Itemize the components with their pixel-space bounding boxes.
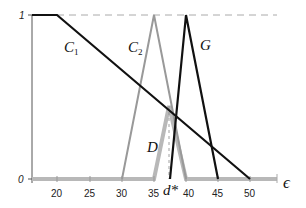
label-G: G (200, 37, 211, 53)
x-axis-label: ϵ (283, 173, 291, 192)
x-tick-label-50: 50 (244, 188, 256, 199)
x-tick-label-20: 20 (51, 188, 63, 199)
x-tick-label-35: 35 (148, 188, 160, 199)
fuzzy-membership-chart: 1 0 C1 C2 G D 20 25 30 35 d* 40 45 50 ϵ (0, 0, 306, 208)
x-label-dstar: d* (163, 182, 179, 198)
x-tick-label-30: 30 (116, 188, 128, 199)
x-tick-label-40: 40 (183, 188, 195, 199)
y-tick-label-0: 0 (18, 174, 24, 185)
label-C2: C2 (128, 39, 143, 57)
x-tick-label-25: 25 (84, 188, 96, 199)
x-tick-label-45: 45 (212, 188, 224, 199)
y-tick-label-1: 1 (19, 10, 25, 21)
label-C1: C1 (64, 39, 79, 57)
label-D: D (146, 139, 158, 155)
